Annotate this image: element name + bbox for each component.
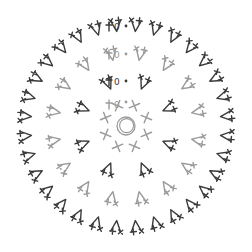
sc-inc-stitch-icon (68, 27, 86, 45)
sc-inc-stitch-icon (181, 37, 200, 56)
sc-inc-stitch-icon (74, 136, 92, 153)
sc-inc-stitch-icon (178, 75, 197, 94)
sc-inc-stitch-icon (215, 88, 232, 105)
sc-inc-stitch-icon (73, 100, 91, 117)
sc-inc-stitch-icon (215, 147, 232, 164)
sc-inc-stitch-icon (165, 27, 183, 45)
sc-inc-stitch-icon (157, 55, 176, 74)
start-dot-icon (125, 53, 128, 56)
start-dot-icon (125, 25, 128, 28)
sc-stitch-icon (129, 141, 139, 151)
sc-inc-stitch-icon (195, 51, 214, 70)
sc-inc-stitch-icon (100, 161, 117, 179)
sc-inc-stitch-icon (104, 191, 119, 207)
sc-inc-stitch-icon (89, 215, 106, 232)
sc-inc-stitch-icon (69, 207, 87, 225)
sc-inc-stitch-icon (75, 55, 94, 74)
sc-inc-stitch-icon (109, 220, 123, 235)
round-4: 0 (17, 17, 235, 235)
sc-inc-stitch-icon (27, 69, 45, 87)
sc-inc-stitch-icon (133, 190, 148, 206)
sc-inc-stitch-icon (27, 165, 45, 183)
sc-inc-stitch-icon (17, 129, 32, 143)
sc-inc-stitch-icon (20, 148, 37, 165)
sc-inc-stitch-icon (76, 178, 95, 197)
sc-stitch-icon (129, 100, 139, 110)
sc-inc-stitch-icon (45, 133, 61, 148)
round-3: 0 (45, 45, 207, 207)
sc-inc-stitch-icon (148, 215, 165, 232)
magic-ring-icon (117, 117, 135, 135)
sc-inc-stitch-icon (132, 45, 147, 61)
sc-stitch-icon (141, 112, 151, 122)
sc-inc-stitch-icon (37, 52, 56, 71)
sc-stitch-icon (112, 141, 122, 151)
sc-inc-stitch-icon (51, 38, 70, 57)
start-dot-icon (125, 101, 128, 104)
sc-inc-stitch-icon (182, 195, 201, 214)
sc-inc-stitch-icon (158, 178, 177, 197)
chart-canvas: 0000 (0, 0, 252, 252)
round-start-label: 0 (114, 77, 120, 87)
sc-inc-stitch-icon (196, 181, 215, 200)
sc-inc-stitch-icon (220, 108, 235, 122)
round-start-label: 0 (114, 100, 120, 110)
sc-stitch-icon (141, 129, 151, 139)
sc-inc-stitch-icon (160, 99, 178, 116)
sc-inc-stitch-icon (220, 128, 235, 142)
sc-inc-stitch-icon (55, 76, 74, 95)
start-dot-icon (125, 80, 128, 83)
sc-inc-stitch-icon (165, 206, 183, 224)
sc-inc-stitch-icon (20, 89, 37, 106)
sc-inc-stitch-icon (135, 73, 152, 91)
sc-inc-stitch-icon (191, 132, 207, 147)
sc-inc-stitch-icon (136, 160, 153, 178)
sc-inc-stitch-icon (128, 17, 142, 32)
sc-stitch-icon (100, 112, 110, 122)
sc-stitch-icon (100, 129, 110, 139)
sc-inc-stitch-icon (55, 158, 74, 177)
round-1: 0 (100, 100, 151, 152)
sc-inc-stitch-icon (161, 135, 179, 152)
sc-inc-stitch-icon (88, 20, 105, 37)
rounds-group: 0000 (17, 17, 235, 235)
sc-inc-stitch-icon (147, 20, 164, 37)
round-2: 0 (73, 73, 178, 178)
sc-inc-stitch-icon (207, 165, 225, 183)
sc-inc-stitch-icon (52, 196, 71, 215)
sc-inc-stitch-icon (190, 103, 206, 118)
sc-inc-stitch-icon (17, 109, 32, 123)
sc-inc-stitch-icon (178, 157, 197, 176)
sc-inc-stitch-icon (45, 104, 61, 119)
sc-inc-stitch-icon (38, 182, 57, 201)
round-start-label: 0 (114, 22, 120, 32)
sc-inc-stitch-icon (129, 220, 143, 235)
round-start-label: 0 (114, 50, 120, 60)
sc-inc-stitch-icon (206, 68, 224, 86)
